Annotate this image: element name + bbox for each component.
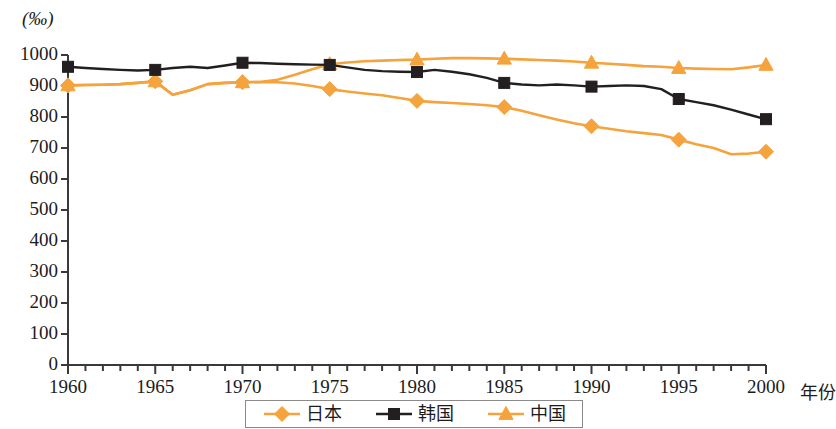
series-markers bbox=[61, 74, 774, 159]
x-tick-label: 1960 bbox=[33, 376, 103, 398]
y-tick-label: 0 bbox=[2, 353, 58, 375]
y-tick-label: 200 bbox=[2, 291, 58, 313]
legend-label: 日本 bbox=[306, 405, 342, 424]
x-tick-label: 1975 bbox=[295, 376, 365, 398]
x-tick-label: 1995 bbox=[644, 376, 714, 398]
series-line bbox=[68, 81, 766, 154]
legend-item: 日本 bbox=[262, 405, 342, 424]
legend-item: 韩国 bbox=[374, 405, 454, 424]
x-axis-ticks bbox=[68, 365, 766, 374]
y-tick-label: 400 bbox=[2, 229, 58, 251]
legend-item: 中国 bbox=[486, 405, 566, 424]
y-axis-ticks bbox=[61, 55, 68, 365]
y-tick-label: 100 bbox=[2, 322, 58, 344]
y-tick-label: 800 bbox=[2, 105, 58, 127]
y-tick-label: 700 bbox=[2, 136, 58, 158]
x-tick-label: 1965 bbox=[120, 376, 190, 398]
x-tick-label: 1985 bbox=[469, 376, 539, 398]
triangle-marker-icon bbox=[486, 405, 526, 423]
x-tick-label: 1970 bbox=[208, 376, 278, 398]
x-tick-label: 1990 bbox=[557, 376, 627, 398]
square-marker-icon bbox=[374, 405, 414, 423]
y-tick-label: 900 bbox=[2, 74, 58, 96]
y-tick-label: 600 bbox=[2, 167, 58, 189]
x-tick-label: 1980 bbox=[382, 376, 452, 398]
y-tick-label: 500 bbox=[2, 198, 58, 220]
y-tick-label: 1000 bbox=[2, 43, 58, 65]
diamond-marker-icon bbox=[262, 405, 302, 423]
x-tick-label: 2000 bbox=[731, 376, 801, 398]
legend-label: 中国 bbox=[530, 405, 566, 424]
x-axis-title: 年份 bbox=[800, 378, 836, 404]
chart-legend: 日本韩国中国 bbox=[245, 400, 583, 428]
y-tick-label: 300 bbox=[2, 260, 58, 282]
legend-label: 韩国 bbox=[418, 405, 454, 424]
